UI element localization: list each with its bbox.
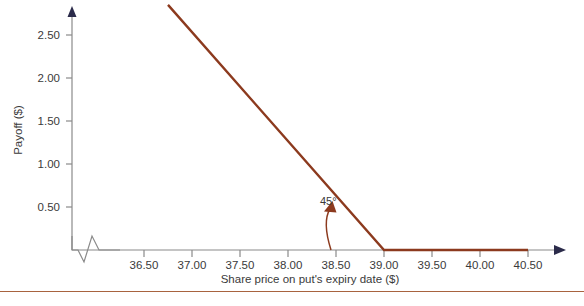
axis-break-zigzag [72, 236, 120, 262]
axis-break-path [72, 236, 120, 262]
y-axis-arrowhead [68, 6, 77, 17]
x-tick-label: 39.50 [418, 259, 447, 271]
y-axis [68, 6, 77, 250]
data-series-group [168, 5, 528, 250]
x-tick-group: 36.5037.0037.5038.0038.5039.0039.5040.00… [130, 250, 543, 271]
y-tick-label: 2.50 [38, 29, 60, 41]
y-tick-label: 2.00 [38, 72, 60, 84]
payoff-line [168, 5, 528, 250]
angle-label: 45° [320, 195, 337, 207]
y-tick-label: 1.00 [38, 158, 60, 170]
y-tick-group: 0.501.001.502.002.50 [38, 29, 72, 213]
x-tick-label: 36.50 [130, 259, 159, 271]
angle-arrow-curve [326, 209, 331, 250]
x-tick-label: 40.50 [514, 259, 543, 271]
payoff-chart-figure: 0.501.001.502.002.50 36.5037.0037.5038.0… [0, 0, 584, 306]
x-tick-label: 39.00 [370, 259, 399, 271]
x-tick-label: 37.50 [226, 259, 255, 271]
x-axis-arrowhead [554, 245, 566, 255]
y-axis-title: Payoff ($) [12, 105, 24, 155]
x-tick-label: 38.00 [274, 259, 303, 271]
x-axis-title: Share price on put's expiry date ($) [221, 273, 400, 285]
y-tick-label: 0.50 [38, 201, 60, 213]
x-tick-label: 38.50 [322, 259, 351, 271]
x-tick-label: 37.00 [178, 259, 207, 271]
y-tick-label: 1.50 [38, 115, 60, 127]
angle-annotation: 45° [320, 195, 337, 250]
payoff-chart-svg: 0.501.001.502.002.50 36.5037.0037.5038.0… [0, 0, 584, 306]
x-tick-label: 40.00 [466, 259, 495, 271]
